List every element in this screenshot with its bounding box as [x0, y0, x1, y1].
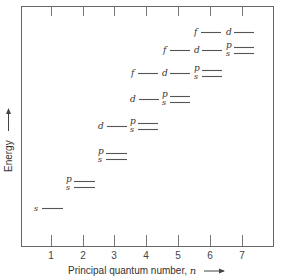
- x-tick-label: 5: [175, 250, 181, 261]
- level-label-s: s: [66, 183, 70, 192]
- level-label-s: s: [162, 98, 166, 107]
- level-label-f: f: [162, 45, 168, 55]
- x-tick-label: 2: [80, 250, 86, 261]
- level-labels: s p s p s d p s d p s f d p s f d p s f …: [34, 27, 232, 213]
- x-tick-label: 6: [207, 250, 213, 261]
- top-ticks: [52, 6, 243, 16]
- x-tick-label: 4: [143, 250, 149, 261]
- x-axis-arrow-icon: [204, 269, 225, 274]
- y-axis-title: Energy: [3, 140, 14, 172]
- bottom-ticks: [52, 235, 243, 246]
- x-axis-title: Principal quantum number, n: [68, 265, 196, 276]
- level-label-d: d: [98, 121, 104, 131]
- energy-level-diagram: 1 2 3 4 5 6 7 Principal quantum number, …: [0, 0, 283, 276]
- level-label-s: s: [34, 204, 38, 213]
- level-label-d: d: [226, 27, 232, 37]
- level-label-s: s: [98, 155, 102, 164]
- energy-levels: [42, 33, 254, 209]
- x-tick-label: 3: [111, 250, 117, 261]
- level-label-s: s: [194, 72, 198, 81]
- level-label-d: d: [194, 45, 200, 55]
- level-label-d: d: [162, 68, 168, 78]
- x-tick-labels: 1 2 3 4 5 6 7: [48, 250, 245, 261]
- level-label-f: f: [193, 27, 199, 37]
- y-axis-arrow-icon: [6, 108, 11, 131]
- plot-frame: [22, 7, 274, 247]
- x-tick-label: 1: [48, 250, 54, 261]
- level-label-s: s: [130, 125, 134, 134]
- x-tick-label: 7: [239, 250, 245, 261]
- level-label-f: f: [130, 68, 136, 78]
- level-label-s: s: [226, 49, 230, 58]
- level-label-d: d: [130, 94, 136, 104]
